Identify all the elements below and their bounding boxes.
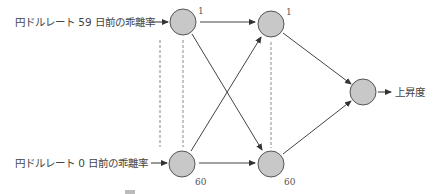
hidden-node-60 [258, 151, 284, 177]
input-index-top: 1 [198, 6, 204, 16]
hidden-index-bottom: 60 [284, 177, 295, 187]
output-node [350, 79, 376, 105]
hidden-index-top: 1 [286, 7, 292, 17]
nodes [169, 9, 376, 177]
input-label-59: 円ドルレート 59 日前の乖離率 [15, 16, 155, 28]
input-node-1 [170, 9, 196, 35]
input-node-60 [169, 151, 195, 177]
hidden-node-1 [258, 11, 284, 37]
input-label-0: 円ドルレート 0 日前の乖離率 [15, 157, 148, 169]
input-index-bottom: 60 [195, 177, 206, 187]
output-label: 上昇度 [395, 86, 425, 98]
caption-fragment [125, 190, 135, 194]
ellipsis-dashed-lines [160, 40, 271, 148]
